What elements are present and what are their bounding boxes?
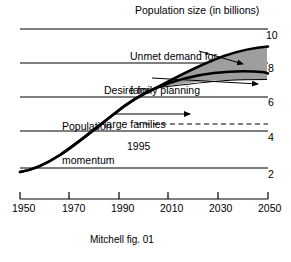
y-tick-label-8: 8 [268,63,274,74]
x-tick-label-2010: 2010 [160,203,183,214]
chart-title: Population size (in billions) [135,5,259,16]
annotation-population-momentum: Population momentum [62,98,115,189]
x-tick-label-2030: 2030 [209,203,232,214]
x-tick-label-1950: 1950 [12,203,35,214]
y-tick-label-4: 4 [268,132,274,143]
x-axis [20,192,268,199]
figure-caption: Mitchell fig. 01 [90,235,154,246]
x-tick-label-1970: 1970 [62,203,85,214]
x-tick-label-2050: 2050 [258,203,281,214]
annotation-year-1995: 1995 [127,141,150,152]
annotation-population-momentum-line2: momentum [62,155,115,166]
y-tick-label-2: 2 [268,169,274,180]
annotation-unmet-demand-line1: Unmet demand for [130,51,217,62]
x-tick-label-1990: 1990 [111,203,134,214]
annotation-desire-large-families-line1: Desire for [104,85,166,96]
y-tick-label-10: 10 [266,30,278,41]
y-tick-label-6: 6 [268,97,274,108]
population-projection-figure: Population size (in billions) 10 8 6 4 2… [0,0,291,262]
annotation-population-momentum-line1: Population [62,121,115,132]
